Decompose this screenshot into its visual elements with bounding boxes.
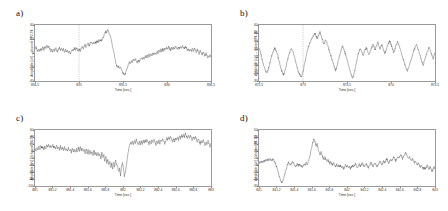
- panel-b-trace-svg: [259, 25, 435, 81]
- panel-b-xtick-label: 873: [300, 83, 305, 87]
- panel-d-xtick-label: 841.2: [273, 188, 281, 192]
- panel-d-xtick-label: 841: [256, 188, 261, 192]
- eeg-figure: a) 834.5835835.5836836.540200-20-40 Ampl…: [0, 0, 448, 211]
- panel-b-plot: 872.5873873.5874874.5403020100-10-20-30 …: [224, 0, 448, 105]
- panel-b-axes: 872.5873873.5874874.5403020100-10-20-30: [258, 24, 436, 82]
- panel-a-xtick-label: 836.5: [207, 83, 215, 87]
- panel-c-xtick-label: 882: [120, 188, 125, 192]
- panel-d-xtick-label: 842.6: [396, 188, 404, 192]
- panel-c-xtick-label: 881.6: [84, 188, 92, 192]
- panel-c-xtick-label: 882.4: [154, 188, 162, 192]
- panel-d-ylabel: Amplitude [uV] -- channel P4-O2: [254, 129, 258, 187]
- panel-a-plot: 834.5835835.5836836.540200-20-40 Amplitu…: [0, 0, 224, 105]
- panel-a-xlabel: Time [sec.]: [34, 88, 212, 92]
- panel-d-trace-svg: [259, 130, 435, 186]
- panel-c-plot: 881881.2881.4881.6881.8882882.2882.4882.…: [0, 105, 224, 210]
- panel-d-xtick-label: 841.6: [308, 188, 316, 192]
- panel-b-xtick-label: 874: [388, 83, 393, 87]
- panel-a-xtick-label: 835.5: [119, 83, 127, 87]
- panel-c-xtick-label: 881: [32, 188, 37, 192]
- panel-b-xlabel: Time [sec.]: [258, 88, 436, 92]
- panel-c-waveform: [35, 133, 211, 177]
- panel-c-xtick-label: 882.2: [137, 188, 145, 192]
- panel-c-ylabel: Amplitude [uV] -- channel T4-T6: [30, 129, 34, 187]
- panel-d: d) 841841.2841.4841.6841.8842842.2842.48…: [224, 105, 448, 210]
- panel-a-trace-svg: [35, 25, 211, 81]
- panel-a-xtick-label: 835: [76, 83, 81, 87]
- panel-d-waveform: [259, 139, 435, 183]
- panel-d-xlabel: Time [sec.]: [258, 193, 436, 197]
- panel-d-xtick-label: 841.8: [325, 188, 333, 192]
- panel-a-xtick-label: 834.5: [31, 83, 39, 87]
- panel-d-xtick-label: 842.2: [361, 188, 369, 192]
- panel-c-xtick-label: 881.4: [66, 188, 74, 192]
- panel-c-xtick-label: 883: [208, 188, 213, 192]
- panel-c-xtick-label: 882.6: [172, 188, 180, 192]
- panel-c: c) 881881.2881.4881.6881.8882882.2882.48…: [0, 105, 224, 210]
- panel-d-xtick-label: 842: [344, 188, 349, 192]
- panel-b-waveform: [259, 31, 435, 78]
- panel-b-ylabel: Amplitude [uV] -- channel P4-O2: [254, 24, 258, 82]
- panel-d-xtick-label: 843: [432, 188, 437, 192]
- panel-d-xtick-label: 841.4: [290, 188, 298, 192]
- panel-b-xtick-label: 872.5: [255, 83, 263, 87]
- panel-b: b) 872.5873873.5874874.5403020100-10-20-…: [224, 0, 448, 105]
- panel-a-axes: 834.5835835.5836836.540200-20-40: [34, 24, 212, 82]
- panel-c-xtick-label: 881.8: [101, 188, 109, 192]
- panel-d-xtick-label: 842.4: [378, 188, 386, 192]
- panel-d-plot: 841841.2841.4841.6841.8842842.2842.4842.…: [224, 105, 448, 210]
- panel-c-trace-svg: [35, 130, 211, 186]
- panel-a: a) 834.5835835.5836836.540200-20-40 Ampl…: [0, 0, 224, 105]
- panel-c-xtick-label: 881.2: [49, 188, 57, 192]
- panel-c-xtick-label: 882.8: [189, 188, 197, 192]
- panel-a-ylabel: Amplitude [uV] -- channel FP2-F4: [30, 24, 34, 82]
- panel-a-xtick-label: 836: [164, 83, 169, 87]
- panel-d-axes: 841841.2841.4841.6841.8842842.2842.4842.…: [258, 129, 436, 187]
- panel-b-xtick-label: 874.5: [431, 83, 439, 87]
- panel-c-xlabel: Time [sec.]: [34, 193, 212, 197]
- panel-d-xtick-label: 842.8: [413, 188, 421, 192]
- panel-c-axes: 881881.2881.4881.6881.8882882.2882.4882.…: [34, 129, 212, 187]
- panel-a-waveform: [35, 30, 211, 76]
- panel-b-xtick-label: 873.5: [343, 83, 351, 87]
